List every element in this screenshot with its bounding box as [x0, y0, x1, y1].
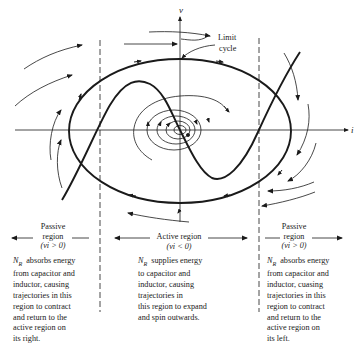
nr-symbol: NR [138, 256, 147, 265]
limit-cycle-label-line1: Limit [218, 33, 237, 42]
left-region-title-2: region [33, 232, 73, 242]
spiral-trajectories [134, 96, 229, 160]
right-region-condition: (vi > 0) [273, 241, 315, 251]
active-region-label: Active region (vi < 0) [148, 232, 210, 251]
i-axis-label: i [351, 125, 354, 135]
right-region-title-2: region [273, 232, 315, 242]
v-axis-label: v [179, 5, 183, 15]
active-region-title: Active region [148, 232, 210, 242]
left-region-description: NR absorbs energy from capacitor and ind… [13, 256, 99, 345]
nr-symbol: NR [13, 256, 22, 265]
right-passive-region-label: Passive region (vi > 0) [273, 222, 315, 251]
axes [15, 17, 348, 222]
nr-symbol: NR [267, 256, 276, 265]
active-region-description: NR supplies energy to capacitor and indu… [138, 256, 228, 323]
limit-cycle-pointer [182, 45, 215, 58]
right-region-description: NR absorbs energy from capacitor and ind… [267, 256, 359, 345]
active-region-condition: (vi < 0) [148, 242, 210, 252]
right-region-title-1: Passive [273, 222, 315, 232]
left-passive-region-label: Passive region (vi > 0) [33, 222, 73, 251]
limit-cycle-label-line2: cycle [219, 44, 237, 53]
left-region-condition: (vi > 0) [33, 241, 73, 251]
left-region-title-1: Passive [33, 222, 73, 232]
